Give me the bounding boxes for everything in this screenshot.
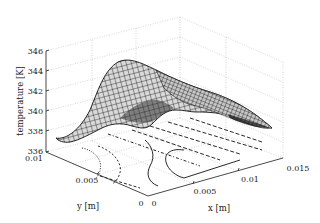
z-tick: 338 bbox=[28, 127, 43, 136]
x-tick: 0.01 bbox=[241, 175, 259, 184]
x-tick: 0.005 bbox=[194, 187, 217, 196]
z-tick: 346 bbox=[28, 47, 43, 56]
surface-plot: 346 344 342 340 338 336 temperature [K] … bbox=[0, 0, 320, 223]
y-axis-label: y [m] bbox=[76, 201, 99, 211]
floor-contours bbox=[82, 118, 262, 188]
x-tick: 0.015 bbox=[287, 164, 310, 173]
x-axis-label: x [m] bbox=[208, 203, 230, 213]
z-tick: 342 bbox=[28, 87, 43, 96]
x-tick: 0 bbox=[151, 199, 156, 208]
y-tick: 0.01 bbox=[25, 154, 43, 163]
z-tick: 344 bbox=[28, 67, 43, 76]
y-tick: 0 bbox=[138, 199, 143, 208]
z-tick: 340 bbox=[28, 107, 43, 116]
z-axis-label: temperature [K] bbox=[15, 66, 25, 136]
y-tick: 0.005 bbox=[76, 176, 99, 185]
z-tick-labels: 346 344 342 340 338 336 bbox=[28, 47, 43, 156]
